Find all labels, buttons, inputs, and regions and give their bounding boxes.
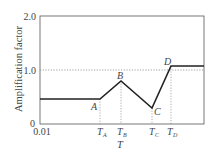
svg-text:A: A xyxy=(102,132,107,138)
point-label-d: D xyxy=(163,56,172,67)
x-tick-td: T D xyxy=(167,126,178,138)
svg-text:B: B xyxy=(123,132,127,138)
svg-text:D: D xyxy=(172,132,178,138)
y-tick-1: 1.0 xyxy=(24,65,37,76)
point-label-a: A xyxy=(90,101,98,112)
point-label-b: B xyxy=(117,70,123,81)
svg-text:C: C xyxy=(155,132,160,138)
y-tick-2: 2.0 xyxy=(24,11,37,22)
x-tick-ta: T A xyxy=(97,126,107,138)
x-axis-label: T xyxy=(117,139,124,150)
point-label-c: C xyxy=(154,106,161,117)
x-tick-start: 0.01 xyxy=(33,126,51,137)
y-axis-label: Amplification factor xyxy=(13,25,24,112)
x-tick-tc: T C xyxy=(149,126,160,138)
amplification-chart: 2.0 1.0 0 0.01 T A T B T C T D A B C D T… xyxy=(0,0,215,154)
x-tick-tb: T B xyxy=(117,126,127,138)
